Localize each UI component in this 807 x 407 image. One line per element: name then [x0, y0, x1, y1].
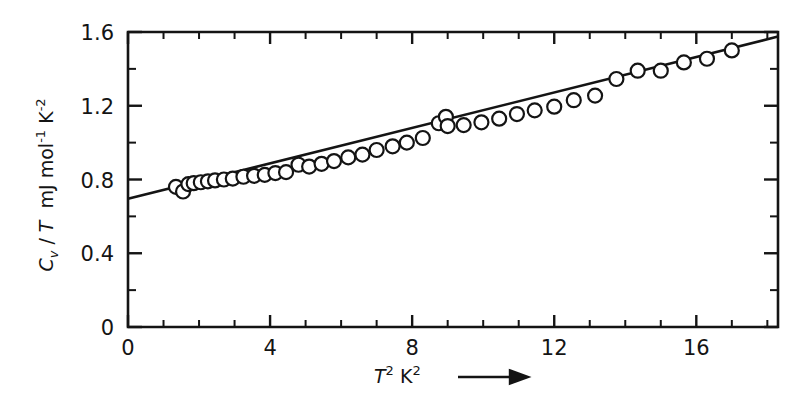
x-tick-label: 16 [683, 336, 710, 360]
y-axis-label-unit-prefix: mJ mol [35, 143, 57, 209]
plot-canvas: 0481216 00.40.81.21.6 ===== --> T2 K2 Cv… [0, 0, 807, 407]
y-axis-label-unit-suffix: K [35, 111, 57, 124]
data-point-marker [510, 107, 524, 121]
y-axis-label-symbol: C [35, 258, 57, 272]
y-axis-label-unit-prefix-exponent: -1 [33, 130, 48, 143]
data-point-marker [386, 139, 400, 153]
x-axis-tick-labels: 0481216 [121, 336, 709, 360]
y-tick-label: 1.2 [81, 95, 114, 119]
y-tick-label: 1.6 [81, 21, 114, 45]
data-point-marker [474, 115, 488, 129]
svg-text:T2 K2: T2 K2 [374, 363, 421, 387]
x-tick-label: 0 [121, 336, 134, 360]
right-arrow-icon [458, 371, 528, 384]
y-tick-label: 0 [101, 316, 114, 340]
data-point-marker [441, 119, 455, 133]
data-point-marker [355, 148, 369, 162]
x-tick-label: 12 [541, 336, 568, 360]
y-axis-tick-labels: 00.40.81.21.6 [81, 21, 114, 340]
x-tick-label: 8 [405, 336, 418, 360]
data-point-marker [654, 64, 668, 78]
x-tick-label: 4 [263, 336, 276, 360]
x-axis-label: T2 K2 [374, 363, 528, 387]
data-point-marker [567, 93, 581, 107]
data-point-marker [700, 52, 714, 66]
data-point-marker [725, 43, 739, 57]
data-point-marker [370, 143, 384, 157]
x-axis-label-unit-exponent: 2 [412, 363, 420, 378]
data-point-marker [457, 118, 471, 132]
data-point-marker [416, 131, 430, 145]
y-axis-label-unit-suffix-exponent: -2 [33, 98, 48, 111]
data-point-marker [588, 89, 602, 103]
data-point-marker [492, 112, 506, 126]
data-point-marker [400, 136, 414, 150]
y-axis-label: Cv / T mJ mol-1 K-2 [33, 98, 61, 271]
data-point-marker [327, 154, 341, 168]
data-point-marker [631, 64, 645, 78]
svg-text:Cv / T mJ mol-1 K-2: Cv / T mJ mol-1 K-2 [33, 98, 61, 271]
x-axis-label-symbol-exponent: 2 [386, 363, 394, 378]
data-point-marker [547, 100, 561, 114]
data-point-marker [341, 150, 355, 164]
y-tick-label: 0.4 [81, 242, 114, 266]
x-axis-label-unit: K [400, 365, 413, 387]
data-point-marker [677, 55, 691, 69]
data-point-marker [528, 103, 542, 117]
chart-figure: 0481216 00.40.81.21.6 ===== --> T2 K2 Cv… [0, 0, 807, 407]
y-tick-label: 0.8 [81, 169, 114, 193]
data-point-marker [609, 72, 623, 86]
